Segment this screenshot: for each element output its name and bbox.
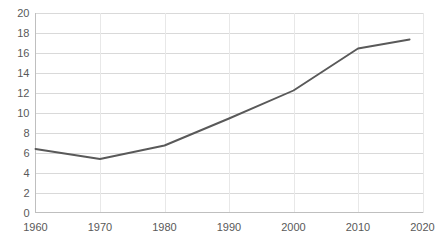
gridlines-vertical: [101, 13, 424, 213]
x-tick-label: 1960: [23, 221, 47, 233]
x-axis-tick-labels: 1960197019801990200020102020: [23, 221, 434, 233]
x-tick-label: 2000: [281, 221, 305, 233]
y-tick-label: 20: [17, 7, 29, 19]
y-tick-label: 16: [17, 47, 29, 59]
x-tick-label: 1970: [88, 221, 112, 233]
x-tick-label: 1980: [152, 221, 176, 233]
x-tick-label: 2010: [346, 221, 370, 233]
y-axis-tick-labels: 02468101214161820: [17, 7, 29, 219]
data-series-line: [36, 40, 410, 160]
chart-canvas: 02468101214161820 1960197019801990200020…: [0, 0, 445, 242]
x-tick-label: 2020: [410, 221, 434, 233]
series-polyline: [36, 40, 410, 160]
y-tick-label: 12: [17, 87, 29, 99]
y-tick-label: 18: [17, 27, 29, 39]
x-tick-label: 1990: [217, 221, 241, 233]
y-tick-label: 10: [17, 107, 29, 119]
y-tick-label: 6: [23, 147, 29, 159]
y-tick-label: 2: [23, 187, 29, 199]
y-tick-label: 14: [17, 67, 29, 79]
y-tick-label: 0: [23, 207, 29, 219]
line-chart: 02468101214161820 1960197019801990200020…: [0, 0, 445, 242]
y-tick-label: 4: [23, 167, 29, 179]
y-tick-label: 8: [23, 127, 29, 139]
